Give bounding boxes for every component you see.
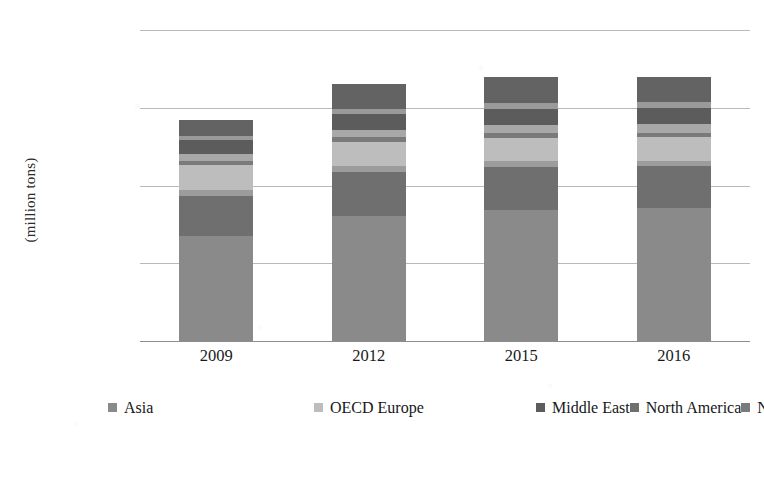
bar-stack[interactable]	[637, 77, 711, 341]
legend-item[interactable]: Non - OECD Europe	[741, 399, 764, 417]
bar-segment[interactable]	[179, 154, 253, 161]
stacked-bar-chart: (million tons) 010,00020,00030,00040,000…	[0, 0, 764, 482]
bar-segment[interactable]	[637, 166, 711, 208]
bar-segment[interactable]	[179, 236, 253, 341]
bar-group[interactable]	[332, 84, 406, 341]
bar-segment[interactable]	[484, 125, 558, 134]
bar-segment[interactable]	[484, 77, 558, 103]
bar-segment[interactable]	[637, 77, 711, 103]
legend-swatch-icon	[314, 403, 323, 412]
x-axis-tick-label: 2009	[161, 346, 271, 366]
bar-stack[interactable]	[484, 77, 558, 341]
legend-item[interactable]: Asia	[108, 399, 314, 417]
bar-segment[interactable]	[332, 84, 406, 108]
legend-label: OECD Europe	[330, 399, 424, 417]
y-axis-title-text: (million tons)	[22, 120, 39, 280]
bar-segment[interactable]	[637, 208, 711, 341]
plot-area: 010,00020,00030,00040,000 20092012201520…	[140, 30, 750, 342]
bar-segment[interactable]	[484, 167, 558, 210]
bar-segment[interactable]	[484, 109, 558, 125]
chart-legend: AsiaOECD EuropeMiddle EastNorth AmericaN…	[108, 396, 728, 419]
bar-segment[interactable]	[332, 142, 406, 166]
legend-label: Asia	[124, 399, 153, 417]
bar-segment[interactable]	[179, 120, 253, 136]
legend-label: Non - OECD Europe	[757, 399, 764, 417]
bar-segment[interactable]	[332, 114, 406, 130]
bar-segment[interactable]	[484, 138, 558, 161]
legend-swatch-icon	[108, 403, 117, 412]
bar-segment[interactable]	[179, 196, 253, 236]
bar-group[interactable]	[484, 77, 558, 341]
bar-segment[interactable]	[179, 165, 253, 190]
legend-item[interactable]: Middle East	[536, 399, 630, 417]
bars-layer	[140, 30, 750, 342]
bar-stack[interactable]	[332, 84, 406, 341]
legend-label: Middle East	[552, 399, 630, 417]
bar-segment[interactable]	[637, 137, 711, 160]
legend-swatch-icon	[741, 403, 750, 412]
legend-item[interactable]: North America	[630, 399, 742, 417]
bar-stack[interactable]	[179, 120, 253, 342]
legend-swatch-icon	[536, 403, 545, 412]
x-axis-tick-label: 2015	[466, 346, 576, 366]
bar-group[interactable]	[637, 77, 711, 341]
bar-segment[interactable]	[332, 216, 406, 341]
bar-segment[interactable]	[332, 130, 406, 138]
bar-segment[interactable]	[637, 124, 711, 133]
y-axis-title: (million tons)	[22, 0, 39, 120]
bar-segment[interactable]	[332, 172, 406, 216]
bar-segment[interactable]	[179, 140, 253, 153]
bar-group[interactable]	[179, 120, 253, 342]
legend-label: North America	[646, 399, 742, 417]
bar-segment[interactable]	[484, 210, 558, 341]
legend-item[interactable]: OECD Europe	[314, 399, 536, 417]
x-axis-tick-label: 2012	[314, 346, 424, 366]
x-axis-tick-label: 2016	[619, 346, 729, 366]
bar-segment[interactable]	[637, 108, 711, 124]
legend-swatch-icon	[630, 403, 639, 412]
